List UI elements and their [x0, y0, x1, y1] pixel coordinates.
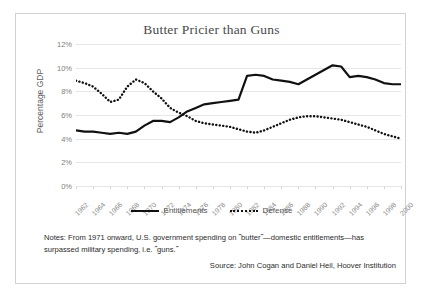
series-line-defense: [76, 80, 401, 139]
x-tick-mark: [298, 186, 299, 189]
x-tick-mark: [230, 186, 231, 189]
y-tick-label: 6%: [38, 111, 72, 120]
plot-area-wrapper: Percentage GDP 12%10%8%6%4%2%0% 19621964…: [16, 44, 407, 204]
x-tick-mark: [315, 186, 316, 189]
x-tick-mark: [144, 186, 145, 189]
plot-area: [76, 44, 401, 186]
legend-item-defense[interactable]: Defense: [230, 206, 293, 215]
series-lines: [76, 44, 401, 186]
x-tick-mark: [110, 186, 111, 189]
x-tick-mark: [213, 186, 214, 189]
x-tick-mark: [264, 186, 265, 189]
x-tick-mark: [76, 186, 77, 189]
x-tick-mark: [350, 186, 351, 189]
y-tick-label: 12%: [38, 40, 72, 49]
legend-swatch-solid-icon: [131, 210, 159, 212]
x-tick-mark: [247, 186, 248, 189]
legend-swatch-dotted-icon: [230, 210, 258, 212]
x-tick-mark: [401, 186, 402, 189]
x-tick-mark: [367, 186, 368, 189]
x-tick-mark: [333, 186, 334, 189]
legend-label-entitlements: Entitlements: [164, 206, 208, 215]
x-tick-mark: [196, 186, 197, 189]
y-tick-label: 4%: [38, 134, 72, 143]
x-tick-mark: [179, 186, 180, 189]
chart-legend: Entitlements Defense: [16, 206, 407, 215]
x-tick-mark: [281, 186, 282, 189]
chart-source: Source: John Cogan and Daniel Heil, Hoov…: [44, 261, 396, 270]
x-tick-mark: [162, 186, 163, 189]
chart-title: Butter Pricier than Guns: [16, 22, 407, 38]
y-tick-label: 2%: [38, 158, 72, 167]
x-tick-mark: [127, 186, 128, 189]
y-tick-label: 10%: [38, 63, 72, 72]
x-tick-mark: [93, 186, 94, 189]
chart-notes: Notes: From 1971 onward, U.S. government…: [44, 232, 382, 256]
y-axis-tick-labels: 12%10%8%6%4%2%0%: [38, 44, 72, 204]
y-tick-label: 8%: [38, 87, 72, 96]
legend-label-defense: Defense: [263, 206, 293, 215]
legend-item-entitlements[interactable]: Entitlements: [131, 206, 208, 215]
x-tick-mark: [384, 186, 385, 189]
y-tick-label: 0%: [38, 182, 72, 191]
chart-frame: Butter Pricier than Guns Percentage GDP …: [15, 13, 406, 284]
